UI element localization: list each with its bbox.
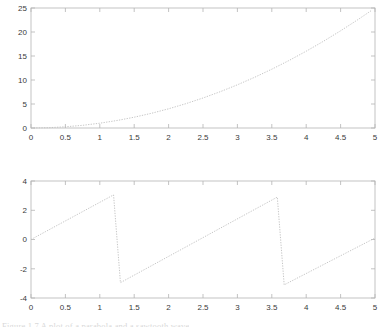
y-tick-label: 25 xyxy=(18,4,27,13)
y-tick-label: 2 xyxy=(23,206,28,215)
chart-parabola: 0 5 10 15 20 25 0 0.5 1 1.5 2 2.5 3 3.5 … xyxy=(18,4,378,142)
x-tick-label: 4 xyxy=(304,133,309,142)
x-tick-label: 3 xyxy=(235,303,240,312)
plot-frame-top xyxy=(31,8,375,128)
x-ticks-bottom-plot xyxy=(31,181,375,298)
x-tick-label: 2 xyxy=(166,303,171,312)
y-tick-label: 15 xyxy=(18,52,27,61)
y-tick-label: -2 xyxy=(20,265,28,274)
plot-frame-bottom xyxy=(31,181,375,298)
x-tick-label: 4.5 xyxy=(335,133,347,142)
clipped-caption: Figure 1.7 A plot of a parabola and a sa… xyxy=(2,316,189,327)
x-tick-label: 5 xyxy=(373,133,378,142)
x-ticks-top-plot xyxy=(31,8,375,128)
chart-sawtooth: -4 -2 0 2 4 0 0.5 1 1.5 2 2.5 3 3.5 4 4.… xyxy=(20,177,378,312)
x-tick-label: 2 xyxy=(166,133,171,142)
x-tick-label: 3 xyxy=(235,133,240,142)
x-tick-label: 3.5 xyxy=(266,303,278,312)
x-tick-labels-bottom-plot: 0 0.5 1 1.5 2 2.5 3 3.5 4 4.5 5 xyxy=(29,303,378,312)
x-tick-label: 5 xyxy=(373,303,378,312)
y-tick-labels-top-plot: 0 5 10 15 20 25 xyxy=(18,4,27,133)
x-tick-label: 0.5 xyxy=(60,133,72,142)
x-tick-label: 1 xyxy=(98,133,103,142)
data-series-sawtooth xyxy=(31,195,375,285)
y-tick-label: 20 xyxy=(18,28,27,37)
x-tick-labels-top-plot: 0 0.5 1 1.5 2 2.5 3 3.5 4 4.5 5 xyxy=(29,133,378,142)
y-tick-label: 0 xyxy=(23,235,28,244)
x-tick-label: 2.5 xyxy=(197,303,209,312)
figure-canvas: 0 5 10 15 20 25 0 0.5 1 1.5 2 2.5 3 3.5 … xyxy=(0,0,388,327)
y-tick-label: 10 xyxy=(18,76,27,85)
y-ticks-bottom-plot xyxy=(31,181,375,298)
y-ticks-top-plot xyxy=(31,8,375,128)
x-tick-label: 0 xyxy=(29,303,34,312)
x-tick-label: 4.5 xyxy=(335,303,347,312)
x-tick-label: 1 xyxy=(98,303,103,312)
x-tick-label: 3.5 xyxy=(266,133,278,142)
x-tick-label: 2.5 xyxy=(197,133,209,142)
y-tick-label: -4 xyxy=(20,294,28,303)
x-tick-label: 4 xyxy=(304,303,309,312)
x-tick-label: 1.5 xyxy=(129,303,141,312)
data-series-parabola xyxy=(31,10,372,128)
y-tick-label: 4 xyxy=(23,177,28,186)
y-tick-label: 5 xyxy=(23,100,28,109)
x-tick-label: 0 xyxy=(29,133,34,142)
y-tick-label: 0 xyxy=(23,124,28,133)
x-tick-label: 0.5 xyxy=(60,303,72,312)
y-tick-labels-bottom-plot: -4 -2 0 2 4 xyxy=(20,177,28,303)
x-tick-label: 1.5 xyxy=(129,133,141,142)
